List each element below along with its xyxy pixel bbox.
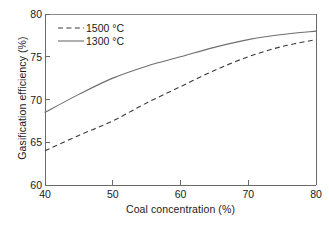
x-tick-label-70: 70	[233, 189, 263, 200]
caption-fragment	[6, 217, 324, 225]
y-tick-marks	[45, 14, 50, 185]
x-tick-marks	[45, 180, 316, 185]
x-tick-labels: 40 50 60 70 80	[0, 189, 329, 203]
legend-label-1300c: 1300 °C	[86, 35, 124, 47]
legend-label-1500c: 1500 °C	[86, 22, 124, 34]
legend-item-1300c: 1300 °C	[86, 35, 124, 48]
x-tick-label-80: 80	[301, 189, 329, 200]
legend-sample-lines	[58, 28, 84, 41]
figure-chart: 1500 °C 1300 °C 80 75 70 65 60 40 50 60 …	[0, 0, 329, 225]
legend: 1500 °C 1300 °C	[86, 22, 124, 48]
legend-item-1500c: 1500 °C	[86, 22, 124, 35]
data-series-group	[45, 31, 316, 151]
x-axis-title: Coal concentration (%)	[45, 203, 316, 215]
y-axis-title: Gasification efficiency (%)	[16, 13, 28, 183]
x-tick-label-40: 40	[30, 189, 60, 200]
x-tick-label-60: 60	[166, 189, 196, 200]
x-tick-label-50: 50	[98, 189, 128, 200]
